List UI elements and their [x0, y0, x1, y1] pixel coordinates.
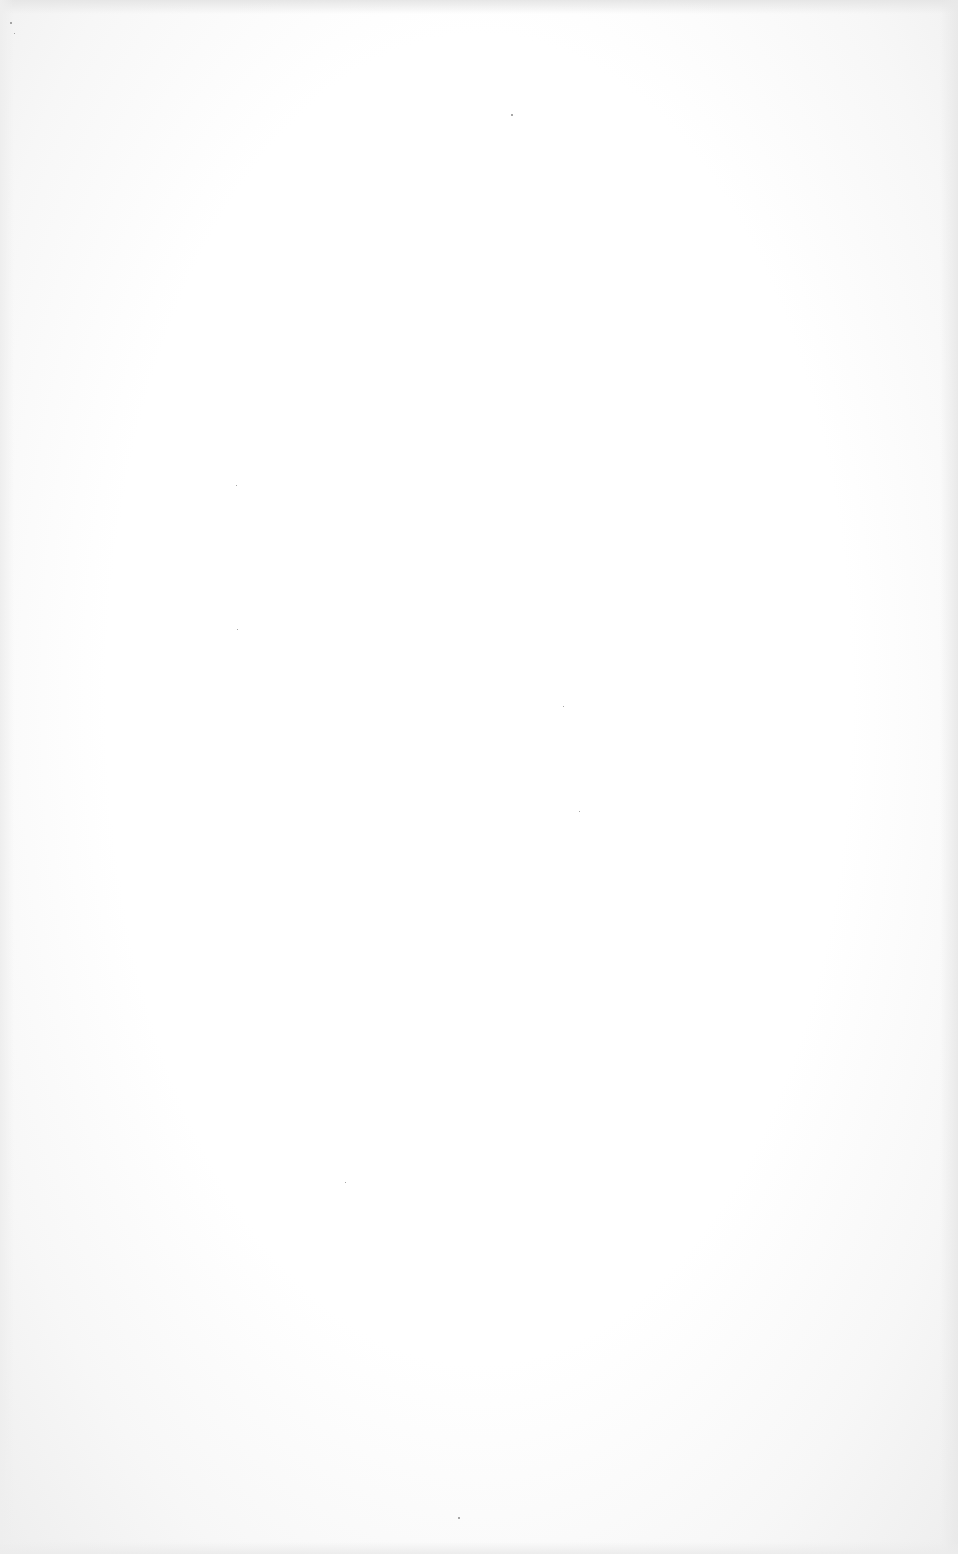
- paper-speck: [345, 1182, 346, 1183]
- scan-shadow-bottom: [0, 1542, 958, 1554]
- paper-speck: [511, 114, 513, 116]
- paper-speck: [458, 1517, 460, 1519]
- paper-speck: [237, 629, 238, 630]
- scan-shadow-top: [0, 0, 958, 14]
- scanned-page: [0, 0, 958, 1554]
- scan-shadow-left: [0, 0, 14, 1554]
- paper-speck: [563, 706, 564, 707]
- scan-shadow-right: [940, 0, 958, 1554]
- paper-speck: [236, 485, 237, 486]
- paper-speck: [10, 22, 12, 24]
- paper-speck: [579, 811, 580, 812]
- paper-speck: [14, 33, 15, 34]
